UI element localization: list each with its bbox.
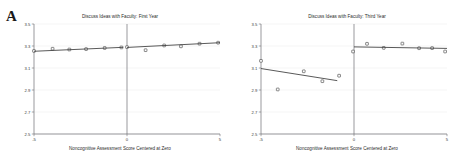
third-year-marker-0-0 bbox=[260, 60, 263, 63]
first-year-ytick-label-4: 3.3 bbox=[25, 44, 31, 49]
chart-third-year: 2.52.72.93.13.33.5-505 Discuss Ideas wit… bbox=[227, 0, 454, 162]
first-year-fitline-2 bbox=[34, 47, 123, 51]
third-year-marker-0-5 bbox=[352, 50, 355, 53]
third-year-ytick-label-5: 3.5 bbox=[252, 22, 258, 27]
first-year-xtick-label-1: 0 bbox=[126, 137, 129, 142]
chart-first-year-title: Discuss Ideas with Faculty: First Year bbox=[82, 14, 159, 19]
third-year-xtick-label-0: -5 bbox=[259, 137, 263, 142]
first-year-xtick-label-2: 5 bbox=[219, 137, 222, 142]
third-year-marker-1-1 bbox=[382, 47, 385, 50]
first-year-ytick-label-1: 2.7 bbox=[25, 110, 31, 115]
third-year-marker-0-1 bbox=[276, 88, 279, 91]
third-year-marker-0-4 bbox=[338, 74, 341, 77]
chart-third-year-body: 2.52.72.93.13.33.5-505 bbox=[252, 22, 449, 143]
first-year-ytick-label-0: 2.5 bbox=[25, 132, 31, 137]
third-year-xtick-label-2: 5 bbox=[446, 137, 449, 142]
figure-panel-a: A 2.52.72.93.13.33.5-505 Discuss Ideas w… bbox=[0, 0, 454, 162]
chart-first-year-xlabel: Noncognitive Assessment Score Centered a… bbox=[69, 146, 171, 151]
third-year-fitline-2 bbox=[261, 69, 337, 81]
third-year-marker-1-0 bbox=[366, 42, 369, 45]
third-year-marker-0-2 bbox=[302, 70, 305, 73]
chart-first-year-svg: 2.52.72.93.13.33.5-505 Discuss Ideas wit… bbox=[0, 0, 227, 162]
third-year-ytick-label-1: 2.7 bbox=[252, 110, 258, 115]
first-year-marker-1-1 bbox=[144, 49, 147, 52]
third-year-ytick-label-0: 2.5 bbox=[252, 132, 258, 137]
third-year-marker-0-3 bbox=[321, 80, 324, 83]
third-year-marker-1-2 bbox=[401, 42, 404, 45]
chart-third-year-svg: 2.52.72.93.13.33.5-505 Discuss Ideas wit… bbox=[227, 0, 454, 162]
third-year-xtick-label-1: 0 bbox=[353, 137, 356, 142]
chart-third-year-xlabel: Noncognitive Assessment Score Centered a… bbox=[296, 146, 398, 151]
third-year-marker-1-5 bbox=[444, 50, 447, 53]
first-year-marker-1-3 bbox=[180, 45, 183, 48]
first-year-ytick-label-2: 2.9 bbox=[25, 88, 31, 93]
first-year-ytick-label-5: 3.5 bbox=[25, 22, 31, 27]
third-year-ytick-label-4: 3.3 bbox=[252, 44, 258, 49]
first-year-marker-0-1 bbox=[51, 47, 54, 50]
third-year-ytick-label-2: 2.9 bbox=[252, 88, 258, 93]
first-year-xtick-label-0: -5 bbox=[32, 137, 36, 142]
first-year-fitline-3 bbox=[127, 43, 220, 48]
chart-first-year: 2.52.72.93.13.33.5-505 Discuss Ideas wit… bbox=[0, 0, 227, 162]
chart-third-year-title: Discuss Ideas with Faculty: Third Year bbox=[308, 14, 386, 19]
first-year-ytick-label-3: 3.1 bbox=[25, 66, 31, 71]
chart-first-year-body: 2.52.72.93.13.33.5-505 bbox=[25, 22, 222, 143]
third-year-ytick-label-3: 3.1 bbox=[252, 66, 258, 71]
